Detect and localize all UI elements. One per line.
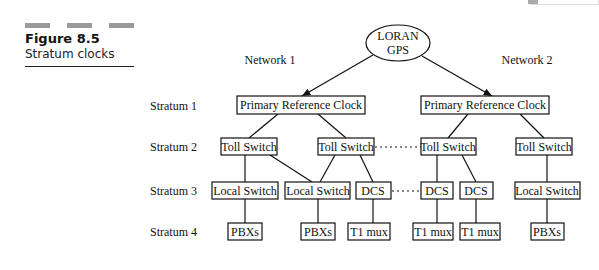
svg-text:PBXs: PBXs [231, 225, 259, 239]
svg-text:Local Switch: Local Switch [286, 184, 350, 198]
network-1-label: Network 1 [245, 53, 296, 67]
stratum-1-label: Stratum 1 [150, 99, 197, 113]
toll-switch-1: Toll Switch [221, 138, 277, 155]
loran-gps-node: LORAN GPS [366, 25, 430, 61]
svg-text:Primary Reference Clock: Primary Reference Clock [240, 98, 362, 112]
local-switch-2: Local Switch [285, 182, 350, 199]
svg-text:Toll Switch: Toll Switch [516, 140, 572, 154]
dcs-1: DCS [356, 182, 391, 199]
t1-mux-3: T1 mux [460, 223, 500, 240]
svg-text:T1 mux: T1 mux [350, 225, 388, 239]
svg-text:DCS: DCS [464, 184, 487, 198]
svg-text:T1 mux: T1 mux [414, 225, 452, 239]
svg-text:Primary Reference Clock: Primary Reference Clock [424, 98, 546, 112]
svg-text:LORAN: LORAN [377, 29, 419, 43]
primary-reference-clock-1: Primary Reference Clock [237, 96, 365, 114]
svg-text:PBXs: PBXs [304, 225, 332, 239]
pbxs-2: PBXs [301, 223, 335, 240]
stratum-3-label: Stratum 3 [150, 184, 197, 198]
toll-switch-2: Toll Switch [318, 138, 374, 155]
pbxs-1: PBXs [228, 223, 262, 240]
dcs-2: DCS [421, 182, 453, 199]
svg-text:Local Switch: Local Switch [213, 184, 277, 198]
local-switch-3: Local Switch [515, 182, 580, 199]
svg-text:Toll Switch: Toll Switch [221, 140, 277, 154]
network-2-label: Network 2 [502, 53, 553, 67]
stratum-2-label: Stratum 2 [150, 140, 197, 154]
toll-switch-3: Toll Switch [420, 138, 476, 155]
svg-text:Local Switch: Local Switch [515, 184, 579, 198]
svg-text:DCS: DCS [361, 184, 384, 198]
svg-text:T1 mux: T1 mux [461, 225, 499, 239]
svg-text:PBXs: PBXs [533, 225, 561, 239]
t1-mux-2: T1 mux [413, 223, 453, 240]
local-switch-1: Local Switch [212, 182, 278, 199]
stratum-4-label: Stratum 4 [150, 225, 197, 239]
svg-text:Toll Switch: Toll Switch [420, 140, 476, 154]
toll-switch-4: Toll Switch [516, 138, 572, 155]
dcs-3: DCS [460, 182, 493, 199]
pbxs-3: PBXs [531, 223, 564, 240]
svg-text:GPS: GPS [387, 43, 409, 57]
primary-reference-clock-2: Primary Reference Clock [421, 96, 549, 114]
svg-text:DCS: DCS [425, 184, 448, 198]
svg-text:Toll Switch: Toll Switch [318, 140, 374, 154]
t1-mux-1: T1 mux [348, 223, 390, 240]
